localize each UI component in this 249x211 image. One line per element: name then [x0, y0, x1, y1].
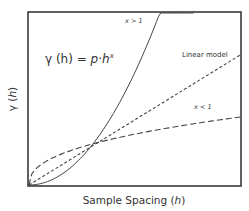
- series-layer: [29, 13, 240, 185]
- annotation-linear-model: Linear model: [182, 51, 228, 59]
- variogram-chart: γ (h) = p·hx x > 1 Linear model x < 1 Sa…: [0, 0, 249, 211]
- annotation-x-gt-1: x > 1: [124, 17, 143, 25]
- series-line-linear-model: [29, 55, 240, 185]
- series-line-x-1: [29, 13, 194, 185]
- x-axis-label: Sample Spacing (h): [83, 194, 186, 206]
- y-axis-label: γ (h): [6, 87, 18, 111]
- annotation-x-lt-1: x < 1: [193, 103, 212, 111]
- plot-frame: [28, 12, 241, 186]
- formula-label: γ (h) = p·hx: [45, 52, 115, 66]
